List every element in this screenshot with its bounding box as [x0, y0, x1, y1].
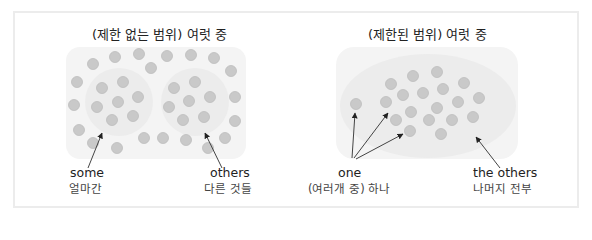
right-panel-title: (제한된 범위) 여럿 중: [368, 24, 487, 43]
left-panel: [66, 47, 246, 168]
left-panel-title: (제한 없는 범위) 여럿 중: [92, 24, 227, 43]
the-others-label-korean: 나머지 전부: [473, 180, 532, 196]
one-label: one: [338, 165, 361, 180]
others-label: others: [210, 165, 250, 180]
one-label-korean: (여러개 중) 하나: [308, 180, 390, 196]
some-label-korean: 얼마간: [69, 180, 102, 196]
some-label: some: [70, 165, 104, 180]
right-panel: [336, 47, 518, 168]
others-label-korean: 다른 것들: [204, 180, 252, 196]
the-others-label: the others: [473, 165, 537, 180]
